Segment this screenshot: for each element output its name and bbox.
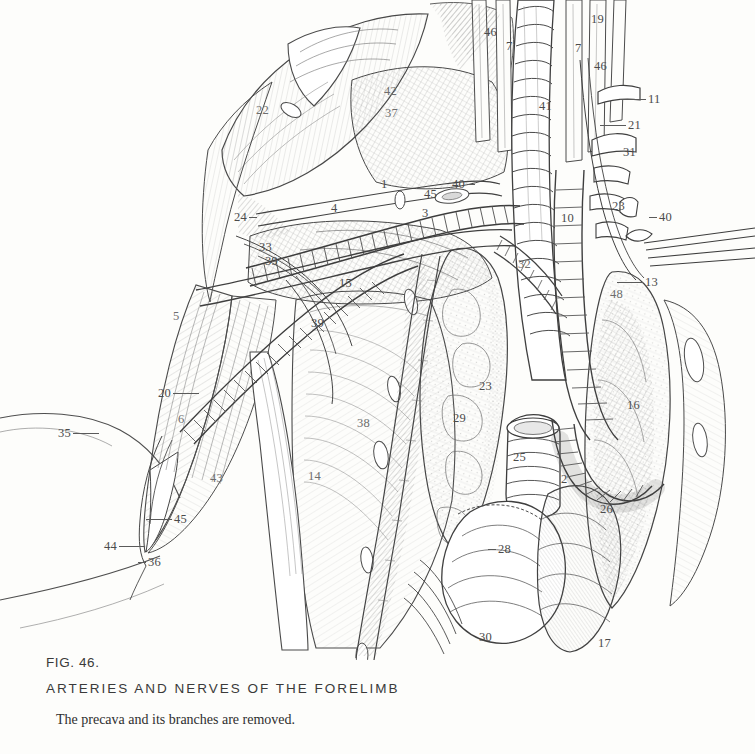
label-38: 38 xyxy=(357,417,370,430)
label-20: 20 xyxy=(158,387,171,400)
label-48: 48 xyxy=(610,288,623,301)
label-33: 33 xyxy=(259,241,272,254)
label-3: 3 xyxy=(422,207,429,220)
label-6: 6 xyxy=(178,413,185,426)
label-24: 24 xyxy=(234,211,247,224)
figure-subtitle: The precava and its branches are removed… xyxy=(46,712,706,728)
figure-page: 46 7 19 7 46 41 11 21 31 23 10 40 13 48 … xyxy=(0,0,755,754)
label-17: 17 xyxy=(598,637,611,650)
label-2: 2 xyxy=(561,473,568,486)
label-45-upper: 45 xyxy=(424,188,437,201)
label-40-centre: 40 xyxy=(452,178,465,191)
label-13: 13 xyxy=(645,276,658,289)
label-46-upper-left: 46 xyxy=(484,26,497,39)
label-31: 31 xyxy=(623,146,636,159)
label-19: 19 xyxy=(591,13,604,26)
label-35: 35 xyxy=(58,427,71,440)
label-43: 43 xyxy=(210,472,223,485)
label-40-right: 40 xyxy=(659,211,672,224)
label-45-lower: 45 xyxy=(174,513,187,526)
label-16: 16 xyxy=(627,399,640,412)
label-36: 36 xyxy=(148,556,161,569)
label-5: 5 xyxy=(173,310,180,323)
label-28: 28 xyxy=(498,543,511,556)
label-14: 14 xyxy=(308,470,321,483)
label-37: 37 xyxy=(385,107,398,120)
label-39-upper: 39 xyxy=(265,255,278,268)
figure-number: FIG. 46. xyxy=(46,655,706,670)
label-23-upper: 23 xyxy=(612,200,625,213)
label-1: 1 xyxy=(381,178,388,191)
label-7-left: 7 xyxy=(506,40,513,53)
label-30: 30 xyxy=(479,631,492,644)
figure-title: ARTERIES AND NERVES OF THE FORELIMB xyxy=(46,681,706,696)
label-41-trachea: 41 xyxy=(539,100,552,113)
figure-caption: FIG. 46. ARTERIES AND NERVES OF THE FORE… xyxy=(46,655,706,728)
label-15: 15 xyxy=(339,277,352,290)
label-32: 32 xyxy=(518,258,531,271)
label-26: 26 xyxy=(600,503,613,516)
label-22: 22 xyxy=(256,104,269,117)
label-23-lung: 23 xyxy=(479,380,492,393)
label-21: 21 xyxy=(628,119,641,132)
label-42: 42 xyxy=(384,85,397,98)
label-7-right: 7 xyxy=(575,42,582,55)
label-10: 10 xyxy=(561,212,574,225)
label-11: 11 xyxy=(648,93,661,106)
label-39-lower: 39 xyxy=(311,317,324,330)
label-29: 29 xyxy=(453,412,466,425)
label-44: 44 xyxy=(104,540,117,553)
label-25: 25 xyxy=(513,451,526,464)
label-46-right: 46 xyxy=(594,60,607,73)
label-4: 4 xyxy=(331,202,338,215)
